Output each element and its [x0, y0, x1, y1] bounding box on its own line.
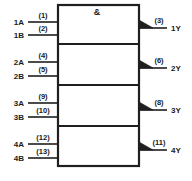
pin-number-1y: (3): [154, 16, 164, 25]
pin-number-3b: (10): [36, 106, 50, 115]
input-label-3a: 3A: [14, 99, 24, 108]
logic-symbol-diagram: & 1A (1) 1B (2) (3) 1Y 2A (4) 2B (5) (6)…: [0, 0, 192, 181]
input-label-2b: 2B: [14, 72, 24, 81]
output-label-2y: 2Y: [171, 64, 181, 73]
output-label-4y: 4Y: [171, 146, 181, 155]
pin-number-1a: (1): [38, 11, 48, 20]
input-label-3b: 3B: [14, 113, 24, 122]
output-wedge-1y: [139, 20, 153, 28]
pin-number-4y: (11): [153, 138, 166, 147]
pin-number-2b: (5): [38, 65, 48, 74]
output-label-3y: 3Y: [171, 106, 181, 115]
pin-number-3a: (9): [38, 92, 48, 101]
pin-number-2y: (6): [154, 56, 164, 65]
and-qualifier-symbol: &: [94, 7, 101, 17]
input-label-2a: 2A: [14, 58, 24, 67]
output-wedge-4y: [139, 142, 153, 150]
pin-number-2a: (4): [38, 51, 48, 60]
input-label-1a: 1A: [14, 18, 24, 27]
output-label-1y: 1Y: [171, 24, 181, 33]
input-label-4b: 4B: [14, 154, 24, 163]
input-label-1b: 1B: [14, 31, 24, 40]
diagram-canvas: & 1A (1) 1B (2) (3) 1Y 2A (4) 2B (5) (6)…: [0, 0, 192, 181]
output-wedge-3y: [139, 102, 153, 110]
output-wedge-2y: [139, 60, 153, 68]
pin-number-1b: (2): [38, 24, 48, 33]
pin-number-4b: (13): [36, 147, 50, 156]
input-label-4a: 4A: [14, 140, 24, 149]
pin-number-3y: (8): [154, 98, 164, 107]
pin-number-4a: (12): [36, 133, 50, 142]
